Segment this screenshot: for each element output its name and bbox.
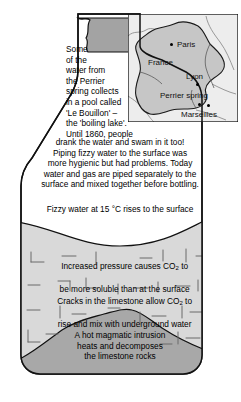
- map-label-perrier-spring: Perrier spring: [160, 91, 208, 100]
- map-dot-lyon: [196, 83, 199, 86]
- map-label-france: France: [148, 58, 173, 67]
- intro-paragraph-continued: drank the water and swam in it too! Pipi…: [16, 137, 224, 190]
- france-inset-map: [128, 14, 238, 122]
- intro-paragraph: Some of the water from the Perrier sprin…: [66, 44, 142, 139]
- diagram-canvas: Some of the water from the Perrier sprin…: [0, 0, 241, 402]
- map-label-paris: Paris: [177, 40, 195, 49]
- map-dot-marseilles: [207, 104, 210, 107]
- surface-note: Fizzy water at 15 °C rises to the surfac…: [18, 205, 222, 215]
- map-label-lyon: Lyon: [186, 72, 203, 81]
- map-dot-paris: [170, 43, 173, 46]
- cracks-note-text-2: rise and mix with underground water: [58, 319, 192, 329]
- magma-note: A hot magmatic intrusion heats and decom…: [30, 330, 210, 362]
- pressure-note-text: Increased pressure causes CO2 to: [61, 261, 188, 271]
- map-label-marseilles: Marseilles: [181, 110, 217, 119]
- cracks-note-text: Cracks in the limestone allow CO2 to: [57, 296, 192, 306]
- map-dot-perrier-spring: [198, 103, 201, 106]
